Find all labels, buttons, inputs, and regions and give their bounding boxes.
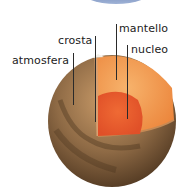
core-label: nucleo (131, 44, 168, 56)
mantle-leader-line (116, 24, 117, 80)
crust-leader-line (95, 36, 96, 122)
atmosphere-label: atmosfera (12, 55, 69, 67)
mantle-label: mantello (119, 23, 168, 35)
core-region (98, 92, 143, 136)
core-leader-line (127, 45, 128, 119)
crust-label: crosta (58, 35, 92, 47)
atmosphere-leader-line (73, 53, 74, 105)
